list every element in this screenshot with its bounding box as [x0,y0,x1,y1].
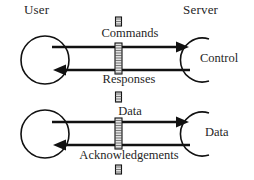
boundary-bar-segment-top [116,17,122,26]
flow-label-commands-text: Commands [102,26,159,40]
flow-label-acknowledgements: Acknowledgements [0,148,254,163]
flow-label-responses: Responses [0,72,254,87]
boundary-bar-segment-bottom [116,165,122,174]
flow-label-responses-text: Responses [103,72,156,86]
boundary-bar-segment-control [115,43,122,74]
flow-label-acknowledgements-text: Acknowledgements [79,148,178,162]
flow-label-data-text: Data [118,104,142,118]
boundary-bar-segment-data [115,118,122,149]
node-label-control: Control [200,51,238,66]
boundary-bar-segment-middle [116,92,122,102]
node-label-data: Data [205,125,229,140]
protocol-diagram: User Server [0,0,254,180]
flow-label-commands: Commands [0,26,254,41]
flow-label-data: Data [0,104,254,119]
